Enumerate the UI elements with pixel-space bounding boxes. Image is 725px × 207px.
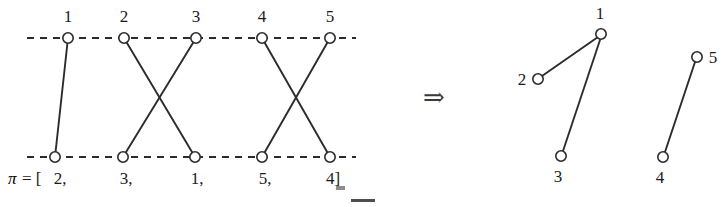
top-node-2 <box>119 33 129 43</box>
permutation-value-4: 5, <box>259 169 272 188</box>
cycle-node-3 <box>556 151 566 161</box>
permutation-pi-symbol: π <box>8 169 17 188</box>
figure-root: 1 2 3 4 5 π = [ 2, 3, 1, 5, 4] ⇒ <box>0 0 725 207</box>
clipped-caption-mark-upper <box>336 186 345 190</box>
permutation-open-bracket: = [ <box>22 169 42 188</box>
permutation-two-row-diagram: 1 2 3 4 5 π = [ 2, 3, 1, 5, 4] <box>8 7 356 188</box>
permutation-value-1: 2, <box>54 169 67 188</box>
figure-canvas: 1 2 3 4 5 π = [ 2, 3, 1, 5, 4] ⇒ <box>0 0 725 207</box>
bottom-node-4 <box>257 152 267 162</box>
top-node-1 <box>63 33 73 43</box>
clipped-caption-mark <box>351 199 375 202</box>
bottom-node-5 <box>325 152 335 162</box>
cycle-graph-diagram: 1 2 3 4 5 <box>518 4 718 187</box>
permutation-value-3: 1, <box>191 169 204 188</box>
bottom-node-1 <box>50 152 60 162</box>
permutation-value-2: 3, <box>120 169 133 188</box>
top-node-label-1: 1 <box>64 7 73 26</box>
bottom-node-2 <box>118 152 128 162</box>
implies-arrow-icon: ⇒ <box>423 83 445 112</box>
cycle-node-5 <box>692 52 702 62</box>
cycle-node-label-5: 5 <box>709 48 718 67</box>
cycle-node-label-4: 4 <box>656 168 665 187</box>
top-node-4 <box>257 33 267 43</box>
top-node-label-3: 3 <box>192 7 201 26</box>
top-node-5 <box>325 33 335 43</box>
top-node-label-5: 5 <box>326 7 335 26</box>
bottom-node-3 <box>190 152 200 162</box>
top-node-label-2: 2 <box>120 7 129 26</box>
top-node-label-4: 4 <box>258 7 267 26</box>
permutation-edge-1 <box>55 38 68 157</box>
cycle-node-4 <box>658 152 668 162</box>
cycle-node-label-3: 3 <box>554 167 563 186</box>
cycle-node-label-1: 1 <box>596 4 605 23</box>
cycle-node-1 <box>596 29 606 39</box>
cycle-node-2 <box>533 74 543 84</box>
cycle-edge-4-5 <box>665 62 695 152</box>
top-node-3 <box>191 33 201 43</box>
cycle-node-label-2: 2 <box>518 70 527 89</box>
